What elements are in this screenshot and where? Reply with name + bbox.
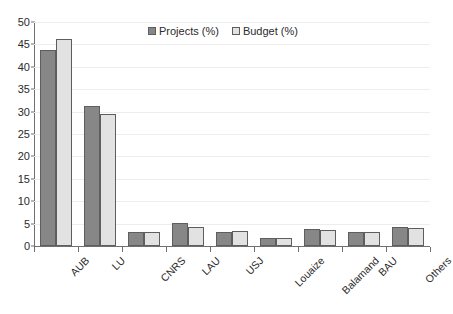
x-tickmark [254,247,255,252]
bar [56,39,72,246]
bar [84,106,100,246]
y-tick-label: 0 [24,241,30,252]
x-tick-label: Louaize [293,255,327,289]
bar [232,231,248,246]
axis-baseline [34,246,430,247]
y-axis: 05101520253035404550 [0,22,30,247]
y-tick-label: 45 [18,39,30,50]
x-tickmark [386,247,387,252]
bar [392,227,408,246]
bar-group [34,22,78,246]
legend-swatch-budget-icon [232,27,240,35]
x-tickmark [122,247,123,252]
legend-item: Projects (%) [148,25,219,37]
plot-area [34,22,430,246]
y-tick-label: 5 [24,218,30,229]
bar-group [298,22,342,246]
x-tick-label: LU [110,255,127,272]
bar [128,232,144,246]
x-tickmark [166,247,167,252]
y-tick-label: 30 [18,106,30,117]
bar [320,230,336,246]
legend-label: Projects (%) [159,25,219,37]
bar-group [386,22,430,246]
x-tick-label: Others [423,255,453,285]
bar [40,50,56,246]
bar [260,238,276,247]
bar [188,227,204,246]
x-tickmark [430,247,431,252]
chart-legend: Projects (%)Budget (%) [148,25,298,37]
x-tick-label: AUB [68,255,91,278]
y-tick-label: 35 [18,84,30,95]
x-tick-label: BAU [376,255,399,278]
bar [348,232,364,246]
legend-swatch-projects-icon [148,27,156,35]
x-tickmark [78,247,79,252]
bar [276,238,292,246]
y-tick-label: 40 [18,61,30,72]
legend-item: Budget (%) [232,25,298,37]
bar [408,228,424,246]
bar-group [166,22,210,246]
x-tick-label: CNRS [159,255,188,284]
x-tickmark [298,247,299,252]
x-tick-label: LAU [200,255,222,277]
y-tick-label: 20 [18,151,30,162]
bar [100,114,116,246]
y-tick-label: 15 [18,173,30,184]
x-tick-label: USJ [244,255,266,277]
bar [364,232,380,246]
bar-group [254,22,298,246]
bar [304,229,320,246]
bar [144,232,160,246]
y-tick-label: 10 [18,196,30,207]
legend-label: Budget (%) [243,25,298,37]
bar [172,223,188,246]
bar-group [342,22,386,246]
y-tick-label: 50 [18,17,30,28]
bar-group [78,22,122,246]
x-tickmark [34,247,35,252]
y-tick-label: 25 [18,129,30,140]
x-tickmark [210,247,211,252]
bar-group [210,22,254,246]
bar-group [122,22,166,246]
bar [216,232,232,246]
x-tickmark [342,247,343,252]
x-tick-label: Balamand [340,255,381,296]
